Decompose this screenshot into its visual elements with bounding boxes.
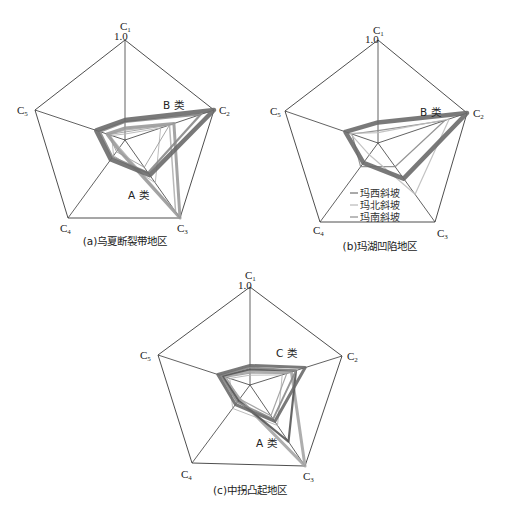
radar-chart-c: 1.0 C1 C2 C3 C4 C5 C 类 A 类 (c)中拐凸起地区 xyxy=(140,269,358,496)
axis-label-c2: C2 xyxy=(219,104,230,118)
legend-item-mabei: 玛北斜坡 xyxy=(360,199,400,211)
axis-label-c3: C3 xyxy=(303,470,314,484)
axis-label-c1: C1 xyxy=(120,20,131,34)
axis-label-c2: C2 xyxy=(473,107,484,121)
class-a-label: A 类 xyxy=(128,189,150,201)
axis-label-c1: C1 xyxy=(245,269,256,283)
figure-caption-cutoff xyxy=(50,500,510,516)
chart-caption-b: (b)玛湖凹陷地区 xyxy=(343,240,418,252)
axis-label-c4: C4 xyxy=(313,224,324,238)
legend-item-manan: 玛南斜坡 xyxy=(360,211,400,223)
axis-label-c4: C4 xyxy=(60,222,71,236)
radar-chart-b: 1.0 C1 C2 C3 C4 C5 B 类 玛西斜坡 玛北斜坡 玛南斜坡 (b… xyxy=(270,24,484,252)
class-b-label: B 类 xyxy=(420,106,442,118)
radar-axis-c4 xyxy=(192,385,250,463)
axis-label-c4: C4 xyxy=(181,468,192,482)
radar-series-line xyxy=(345,113,467,179)
radar-figure: 1.0 C1 C2 C3 C4 C5 B 类 A 类 (a)乌夏断裂带地区 1.… xyxy=(0,0,510,516)
class-a-label: A 类 xyxy=(256,437,278,449)
axis-label-c2: C2 xyxy=(347,350,358,364)
class-b-label: B 类 xyxy=(163,99,185,111)
chart-caption-a: (a)乌夏断裂带地区 xyxy=(83,235,168,247)
radar-frame xyxy=(158,287,342,466)
axis-label-c3: C3 xyxy=(177,222,188,236)
chart-caption-c: (c)中拐凸起地区 xyxy=(213,484,287,496)
radar-series xyxy=(96,110,214,218)
axis-label-c1: C1 xyxy=(373,24,384,38)
axis-label-c5: C5 xyxy=(270,105,281,119)
axis-label-c5: C5 xyxy=(140,349,151,363)
legend: 玛西斜坡 玛北斜坡 玛南斜坡 xyxy=(350,187,400,223)
radar-series-line xyxy=(222,371,305,466)
axis-label-c3: C3 xyxy=(437,227,448,241)
radar-chart-a: 1.0 C1 C2 C3 C4 C5 B 类 A 类 (a)乌夏断裂带地区 xyxy=(17,20,230,247)
legend-item-maxi: 玛西斜坡 xyxy=(360,187,400,199)
radar-series xyxy=(218,365,305,466)
class-c-label: C 类 xyxy=(276,347,298,359)
axis-label-c5: C5 xyxy=(17,104,28,118)
